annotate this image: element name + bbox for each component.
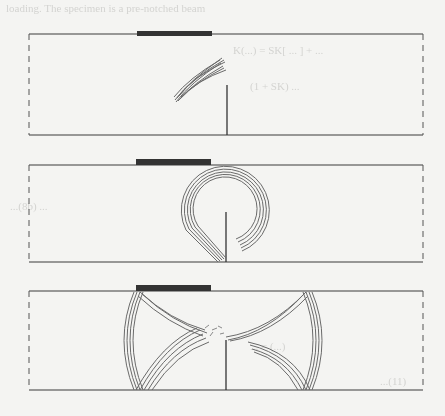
loading-pad xyxy=(136,159,211,165)
panel-1 xyxy=(29,31,423,135)
panel-2 xyxy=(29,159,423,262)
right-hourglass xyxy=(226,292,322,390)
left-hourglass xyxy=(124,292,209,390)
panel-3 xyxy=(29,285,423,390)
figure-canvas xyxy=(0,0,445,416)
wave-loop xyxy=(181,166,269,262)
scatter-marks xyxy=(205,325,224,336)
loading-pad xyxy=(137,31,212,36)
loading-pad xyxy=(136,285,211,291)
wave-packet xyxy=(174,58,226,102)
